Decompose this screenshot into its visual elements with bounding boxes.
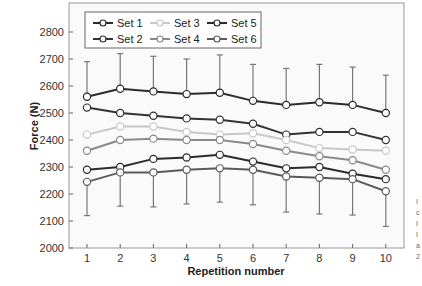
legend-label: Set 5 [231,17,257,29]
cropped-text-fragment: a [416,242,420,249]
legend-label: Set 3 [174,17,200,29]
cropped-text-fragment: 2 [416,253,420,260]
data-point-marker [150,88,157,95]
legend-marker-icon [157,36,163,42]
data-point-marker [382,176,389,183]
x-tick-label: 9 [350,252,356,264]
y-tick-label: 2300 [40,161,64,173]
data-point-marker [216,136,223,143]
data-point-marker [349,176,356,183]
legend-marker-icon [214,20,220,26]
y-tick-label: 2400 [40,134,64,146]
legend-marker-icon [157,20,163,26]
y-tick-label: 2000 [40,242,64,254]
data-point-marker [283,165,290,172]
data-point-marker [183,154,190,161]
legend-label: Set 6 [231,33,257,45]
data-point-marker [150,135,157,142]
legend-label: Set 4 [174,33,200,45]
x-axis-title: Repetition number [187,265,285,277]
legend-label: Set 1 [117,17,143,29]
data-point-marker [316,174,323,181]
data-point-marker [316,163,323,170]
data-point-marker [283,136,290,143]
data-point-marker [249,97,256,104]
data-point-marker [117,109,124,116]
data-point-marker [117,136,124,143]
cropped-text-fragment: I [416,220,418,227]
y-tick-label: 2700 [40,53,64,65]
data-point-marker [83,147,90,154]
x-tick-label: 5 [217,252,223,264]
legend-marker-icon [100,36,106,42]
data-point-marker [382,136,389,143]
data-point-marker [83,104,90,111]
data-point-marker [349,101,356,108]
y-tick-label: 2800 [40,26,64,38]
legend-marker-icon [100,20,106,26]
data-point-marker [249,158,256,165]
y-tick-label: 2200 [40,188,64,200]
data-point-marker [117,169,124,176]
data-point-marker [83,131,90,138]
legend: Set 1Set 3Set 5Set 2Set 4Set 6 [85,12,261,48]
data-point-marker [349,128,356,135]
data-point-marker [117,85,124,92]
x-tick-label: 10 [380,252,392,264]
data-point-marker [83,166,90,173]
data-point-marker [382,188,389,195]
y-tick-label: 2500 [40,107,64,119]
legend-label: Set 2 [117,33,143,45]
data-point-marker [316,153,323,160]
data-point-marker [382,147,389,154]
data-point-marker [150,155,157,162]
y-axis: 200021002200230024002500260027002800 [40,26,73,254]
data-point-marker [283,147,290,154]
data-point-marker [283,173,290,180]
data-point-marker [183,115,190,122]
data-point-marker [316,99,323,106]
data-point-marker [249,140,256,147]
data-point-marker [117,123,124,130]
data-point-marker [349,157,356,164]
x-tick-label: 6 [250,252,256,264]
data-point-marker [183,136,190,143]
data-point-marker [382,166,389,173]
cropped-text-fragment: I [416,231,418,238]
x-tick-label: 7 [283,252,289,264]
y-tick-label: 2600 [40,80,64,92]
y-tick-label: 2100 [40,215,64,227]
data-point-marker [183,91,190,98]
data-point-marker [249,130,256,137]
data-point-marker [216,116,223,123]
force-chart: 200021002200230024002500260027002800 123… [0,0,422,286]
cropped-text-fragment: I [416,198,418,205]
data-point-marker [216,151,223,158]
x-tick-label: 8 [316,252,322,264]
data-point-marker [183,166,190,173]
data-point-marker [349,146,356,153]
x-tick-label: 4 [184,252,190,264]
data-point-marker [283,101,290,108]
data-point-marker [83,93,90,100]
cropped-text-fragment: c [416,209,420,216]
legend-marker-icon [214,36,220,42]
data-point-marker [150,123,157,130]
data-point-marker [216,165,223,172]
data-point-marker [249,120,256,127]
cropped-margin-text: IcIIa2 [416,198,420,260]
data-point-marker [316,145,323,152]
y-axis-title: Force (N) [28,102,40,151]
data-point-marker [249,166,256,173]
x-tick-label: 2 [117,252,123,264]
data-point-marker [83,178,90,185]
data-point-marker [316,128,323,135]
data-point-marker [150,169,157,176]
data-point-marker [183,128,190,135]
x-tick-label: 3 [150,252,156,264]
data-point-marker [382,109,389,116]
x-tick-label: 1 [84,252,90,264]
data-point-marker [150,112,157,119]
data-point-marker [216,89,223,96]
